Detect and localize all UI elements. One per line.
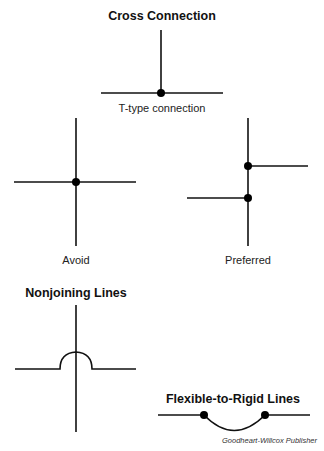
avoid-figure <box>14 118 136 246</box>
publisher-credit: Goodheart-Willcox Publisher <box>222 436 317 445</box>
junction-dot <box>72 178 80 186</box>
diagram-canvas: Cross Connection T-type connection Avoid… <box>0 0 324 451</box>
preferred-label: Preferred <box>225 254 271 266</box>
junction-dot <box>200 411 208 419</box>
t-type-label: T-type connection <box>119 102 206 114</box>
flexible-line-curve <box>204 415 265 431</box>
nonjoining-title: Nonjoining Lines <box>25 286 126 300</box>
junction-dot <box>261 411 269 419</box>
flexible-to-rigid-figure <box>158 411 310 431</box>
preferred-figure <box>187 118 308 246</box>
nonjoining-figure <box>15 305 136 432</box>
junction-dot <box>244 194 252 202</box>
avoid-label: Avoid <box>62 254 89 266</box>
cross-connection-title: Cross Connection <box>108 9 216 23</box>
flexible-to-rigid-title: Flexible-to-Rigid Lines <box>166 392 300 406</box>
junction-dot <box>157 89 165 97</box>
t-type-connection-figure <box>101 30 223 97</box>
junction-dot <box>244 162 252 170</box>
